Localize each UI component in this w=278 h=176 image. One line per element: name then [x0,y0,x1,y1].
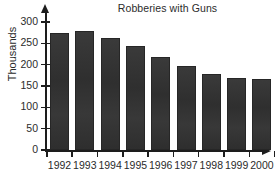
x-axis-tick [223,151,225,157]
y-axis-tick [41,85,50,87]
y-axis-tick-label-text: 150 [8,79,38,91]
y-axis-tick-label: 300 [6,15,38,27]
x-axis-tick [274,151,276,157]
bar-1992 [50,33,69,150]
y-axis-tick-label-text: 100 [8,100,38,112]
y-axis-tick-label-text: 250 [8,36,38,48]
y-axis-tick [41,64,50,66]
x-axis-tick-label-1996: 1996 [147,159,175,171]
y-axis-tick-label: 100 [6,100,38,112]
x-axis-tick [97,151,99,157]
x-axis-tick-label-1998: 1998 [197,159,225,171]
x-axis-tick [173,151,175,157]
y-axis-tick [41,43,50,45]
bar-1997 [177,66,196,150]
y-axis-tick-label-text: 0 [8,143,38,155]
bar-2000 [252,79,271,150]
x-axis-tick-label-1995: 1995 [121,159,149,171]
bar-1996 [151,57,170,150]
y-axis-tick-label-text: 50 [8,122,38,134]
y-axis-tick-label: 50 [6,122,38,134]
x-axis-tick [249,151,251,157]
y-axis-tick [41,107,50,109]
x-axis-tick-label-1992: 1992 [46,159,74,171]
bar-1999 [227,78,246,150]
y-axis-tick-label-text: 300 [8,15,38,27]
x-axis-tick-label-1994: 1994 [96,159,124,171]
y-axis-tick [41,21,50,23]
y-axis-tick [41,128,50,130]
y-axis-tick-label: 250 [6,36,38,48]
y-axis-tick-label: 150 [6,79,38,91]
y-axis-tick-label: 200 [6,58,38,70]
plot-area: 050100150200250300 199219931994199519961… [0,0,278,176]
x-axis-tick [147,151,149,157]
bar-chart-figure: Robberies with Guns Thousands 0501001502… [0,0,278,176]
x-axis-tick-label-1997: 1997 [172,159,200,171]
x-axis-tick-label-1999: 1999 [223,159,251,171]
x-axis-tick [71,151,73,157]
x-axis-tick [46,151,48,157]
y-axis-line [45,12,47,151]
y-axis-tick-label: 0 [6,143,38,155]
bar-1993 [75,31,94,150]
x-axis-tick [122,151,124,157]
x-axis-tick [198,151,200,157]
x-axis-tick-label-2000: 2000 [248,159,276,171]
x-axis-tick-label-1993: 1993 [71,159,99,171]
bar-1995 [126,46,145,150]
y-axis-arrowhead [41,4,49,13]
bar-1998 [202,74,221,150]
x-axis-line [45,150,263,152]
y-axis-tick-label-text: 200 [8,58,38,70]
bar-1994 [101,38,120,150]
